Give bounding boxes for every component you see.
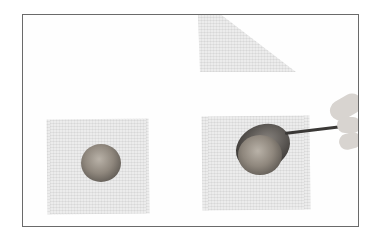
left-filling-mound [81,144,121,182]
folded-triangle-wrapper [198,15,296,72]
hand-finger [337,117,359,133]
hand-finger-lower [337,130,359,151]
photo-frame [22,14,359,227]
spoon-filling [238,135,282,175]
